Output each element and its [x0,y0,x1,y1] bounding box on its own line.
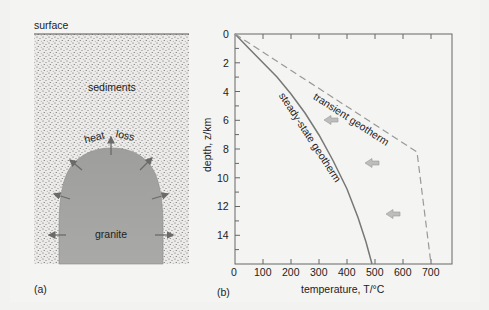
y-tick-label: 10 [217,172,229,184]
steady-state-geotherm-line [235,34,372,264]
x-tick-label: 400 [338,266,356,278]
y-tick-label: 12 [217,200,229,212]
y-ticks [235,48,240,249]
granite-label: granite [95,228,127,240]
x-tick-label: 0 [231,266,237,278]
x-axis-label: temperature, T/°C [301,283,384,295]
granite-body [59,148,163,264]
panel-a-label: (a) [34,283,47,295]
figure-svg [0,0,489,310]
x-tick-label: 500 [366,266,384,278]
x-tick-label: 100 [254,266,272,278]
sediments-label: sediments [88,81,136,93]
x-tick-label: 200 [282,266,300,278]
panel-b-label: (b) [217,286,230,298]
y-tick-label: 4 [223,86,229,98]
transient-geotherm-line [235,34,431,264]
y-tick-label: 2 [223,57,229,69]
y-tick-label: 6 [223,114,229,126]
surface-label: surface [34,19,68,31]
x-ticks [263,34,431,264]
y-tick-label: 0 [223,28,229,40]
x-tick-label: 700 [422,266,440,278]
y-axis-label: depth, z/km [201,118,213,172]
y-tick-label: 8 [223,143,229,155]
x-tick-label: 600 [394,266,412,278]
y-tick-label: 14 [217,229,229,241]
x-tick-label: 300 [310,266,328,278]
panel-b-chart [235,34,452,264]
